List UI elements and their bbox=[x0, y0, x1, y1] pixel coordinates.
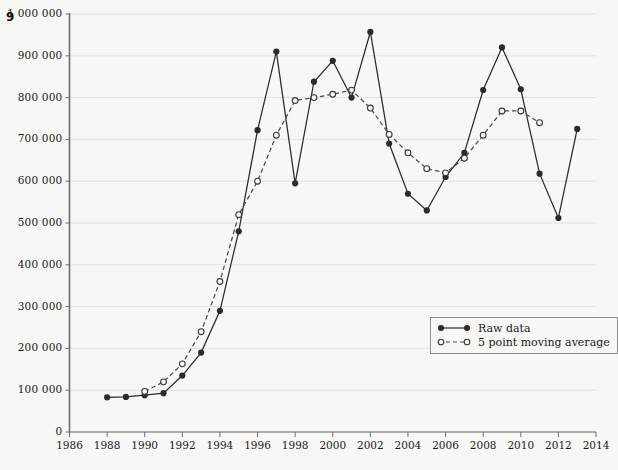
x-axis-tick-label: 2000 bbox=[313, 439, 353, 451]
legend-item-raw-data: Raw data bbox=[436, 321, 610, 335]
legend-label: Raw data bbox=[478, 322, 531, 335]
y-axis-tick-label: 800 000 bbox=[18, 91, 63, 103]
legend-symbol-dashed-open-circle bbox=[436, 336, 472, 348]
x-axis-tick-label: 1986 bbox=[50, 439, 90, 451]
y-axis-tick-label: 900 000 bbox=[18, 49, 63, 61]
y-axis-tick-label: 100 000 bbox=[18, 383, 63, 395]
legend-item-moving-average: 5 point moving average bbox=[436, 335, 610, 349]
y-axis-tick-label: 700 000 bbox=[18, 132, 63, 144]
x-axis-tick-label: 2002 bbox=[350, 439, 390, 451]
x-axis-tick-label: 2010 bbox=[501, 439, 541, 451]
x-axis-tick-label: 1994 bbox=[200, 439, 240, 451]
legend-symbol-solid-filled-circle bbox=[436, 322, 472, 334]
x-axis-tick-label: 1988 bbox=[87, 439, 127, 451]
legend-label: 5 point moving average bbox=[478, 336, 610, 349]
x-axis-tick-label: 2006 bbox=[426, 439, 466, 451]
y-axis-tick-label: 0 bbox=[56, 425, 63, 437]
y-axis-tick-label: 300 000 bbox=[18, 300, 63, 312]
y-axis-tick-label: 400 000 bbox=[18, 258, 63, 270]
y-axis-tick-label: 1 000 000 bbox=[7, 7, 62, 19]
y-axis-tick-label: 500 000 bbox=[18, 216, 63, 228]
x-axis-tick-label: 2008 bbox=[463, 439, 503, 451]
x-axis-tick-label: 2004 bbox=[388, 439, 428, 451]
x-axis-tick-label: 2014 bbox=[576, 439, 616, 451]
y-axis-tick-label: 200 000 bbox=[18, 341, 63, 353]
chart-legend: Raw data 5 point moving average bbox=[430, 317, 618, 354]
x-axis-tick-label: 1992 bbox=[162, 439, 202, 451]
x-axis-tick-label: 1996 bbox=[238, 439, 278, 451]
x-axis-tick-label: 1990 bbox=[125, 439, 165, 451]
x-axis-tick-label: 2012 bbox=[538, 439, 578, 451]
y-axis-tick-label: 600 000 bbox=[18, 174, 63, 186]
x-axis-tick-label: 1998 bbox=[275, 439, 315, 451]
